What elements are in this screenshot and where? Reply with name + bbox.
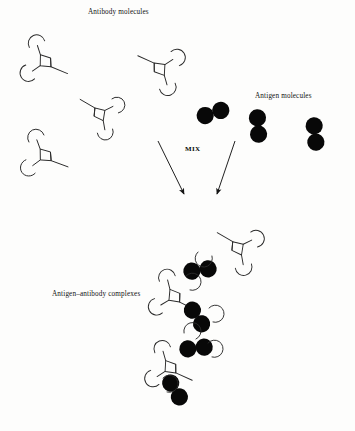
immune-complex-lattice — [143, 220, 266, 409]
antigen-molecule-2 — [248, 109, 268, 144]
mix-arrow-left-icon — [158, 141, 184, 194]
free-antigen-group — [194, 100, 325, 152]
complex-antigen-2 — [180, 298, 213, 335]
antigen-molecule-1 — [194, 100, 231, 127]
antibody-molecule-2 — [132, 43, 187, 98]
antigen-molecules-label: Antigen molecules — [255, 92, 312, 100]
antibody-molecule-1 — [19, 33, 72, 87]
mix-label: MIX — [185, 145, 200, 153]
antibody-molecule-3 — [71, 87, 127, 143]
antigen-molecule-3 — [305, 116, 326, 151]
antibody-molecule-4 — [20, 128, 72, 180]
mix-arrow-right-icon — [217, 141, 235, 194]
immunology-diagram: Antibody molecules Antigen molecules MIX… — [0, 0, 355, 431]
free-antibody-group — [19, 33, 187, 180]
diagram-canvas — [0, 0, 355, 431]
complex-antigen-3 — [178, 338, 213, 359]
antibody-molecules-label: Antibody molecules — [88, 8, 149, 16]
antigen-antibody-complexes-label: Antigen–antibody complexes — [52, 290, 140, 298]
